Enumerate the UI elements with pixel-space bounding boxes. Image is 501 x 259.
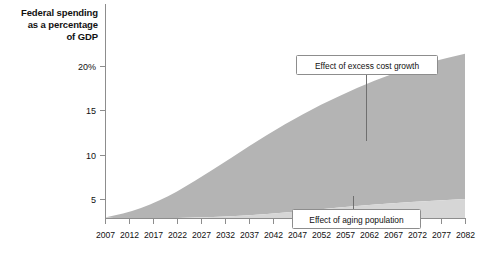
x-tick-label-2032: 2032 xyxy=(216,230,235,240)
x-tick-label-2077: 2077 xyxy=(432,230,451,240)
annotation-label-excess-cost-growth: Effect of excess cost growth xyxy=(315,61,419,71)
y-tick-label-10: 10 xyxy=(86,151,96,161)
x-tick-label-2042: 2042 xyxy=(264,230,283,240)
chart-title-line-3: of GDP xyxy=(66,31,98,42)
x-tick-label-2027: 2027 xyxy=(192,230,211,240)
x-tick-label-2012: 2012 xyxy=(120,230,139,240)
y-tick-label-5: 5 xyxy=(91,195,96,205)
y-tick-label-15: 15 xyxy=(86,106,96,116)
x-tick-label-2022: 2022 xyxy=(168,230,187,240)
annotation-label-aging-population: Effect of aging population xyxy=(309,215,404,225)
x-tick-label-2037: 2037 xyxy=(240,230,259,240)
chart-title-line-2: as a percentage xyxy=(28,19,98,30)
x-tick-label-2052: 2052 xyxy=(312,230,331,240)
y-tick-label-20: 20% xyxy=(78,62,96,72)
x-tick-label-2047: 2047 xyxy=(288,230,307,240)
x-tick-label-2062: 2062 xyxy=(360,230,379,240)
x-tick-label-2017: 2017 xyxy=(144,230,163,240)
x-tick-label-2057: 2057 xyxy=(336,230,355,240)
x-tick-label-2067: 2067 xyxy=(384,230,403,240)
x-tick-label-2007: 2007 xyxy=(96,230,115,240)
x-tick-label-2082: 2082 xyxy=(456,230,475,240)
chart-title-line-1: Federal spending xyxy=(21,7,98,18)
x-tick-label-2072: 2072 xyxy=(408,230,427,240)
chart-container: Federal spending as a percentage of GDP … xyxy=(0,0,501,259)
